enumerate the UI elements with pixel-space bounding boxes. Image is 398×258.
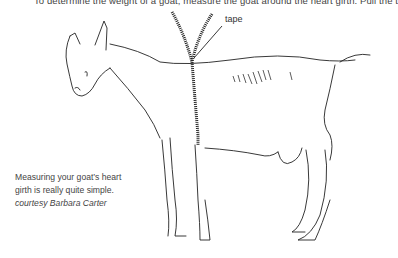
caption-line-1: Measuring your goat’s heart: [15, 171, 121, 184]
goat-front-leg-left: [170, 138, 186, 236]
goat-rump: [324, 65, 335, 160]
tape-label: tape: [225, 14, 243, 24]
goat-back-leg-right: [298, 150, 330, 240]
caption-line-2: girth is really quite simple.: [15, 184, 121, 197]
goat-back: [110, 44, 355, 64]
tape-pointer-line: [194, 26, 222, 58]
goat-ear-back: [70, 33, 80, 44]
figure-caption: Measuring your goat’s heart girth is rea…: [15, 171, 121, 210]
goat-back-hair: [233, 70, 292, 84]
goat-back-leg-left: [292, 150, 309, 232]
goat-belly: [205, 148, 278, 156]
measuring-tape: [172, 12, 212, 145]
caption-credit: courtesy Barbara Carter: [15, 197, 121, 210]
goat-neck-front: [110, 68, 160, 138]
goat-front-leg-right: [195, 145, 210, 240]
goat-udder: [278, 148, 302, 164]
goat-head: [66, 36, 110, 96]
goat-ear-front: [95, 21, 107, 50]
